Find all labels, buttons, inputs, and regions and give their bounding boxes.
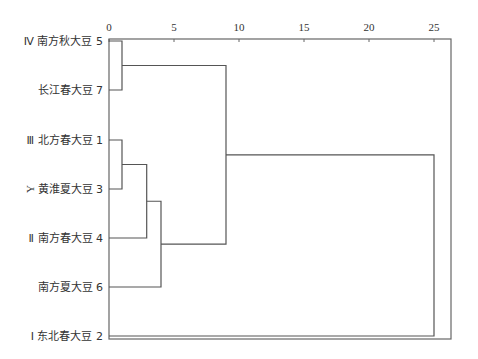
leaf-label: Ⅲ 北方春大豆 1 <box>26 133 103 147</box>
leaf-label: Ⅰ 东北春大豆 2 <box>31 329 103 343</box>
x-tick-label: 25 <box>429 21 441 33</box>
leaf-label: 黄淮夏大豆 3 <box>38 182 104 196</box>
dendrogram-link <box>109 155 434 336</box>
dendrogram-link <box>122 66 226 245</box>
leaf-label: 长江春大豆 7 <box>38 83 104 97</box>
dendrogram-chart: 0510152025 Ⅳ 南方秋大豆 5长江春大豆 7Ⅲ 北方春大豆 1黄淮夏大… <box>0 0 478 359</box>
leaf-label: Ⅳ 南方秋大豆 5 <box>24 34 103 48</box>
leaf-label: 南方夏大豆 6 <box>38 280 104 294</box>
dendrogram-link <box>109 41 122 90</box>
x-tick-label: 10 <box>234 21 246 33</box>
y-axis-label: Y <box>24 185 36 193</box>
x-tick-label: 20 <box>364 21 376 33</box>
leaf-label: Ⅱ 南方春大豆 4 <box>29 231 103 245</box>
dendrogram-link <box>109 140 122 189</box>
x-tick-label: 5 <box>171 21 177 33</box>
dendrogram-link <box>109 165 147 239</box>
x-tick-label: 15 <box>299 21 311 33</box>
x-tick-label: 0 <box>106 21 112 33</box>
dendrogram-link <box>109 201 161 287</box>
dendrogram-links <box>109 41 434 336</box>
plot-frame <box>109 39 451 339</box>
